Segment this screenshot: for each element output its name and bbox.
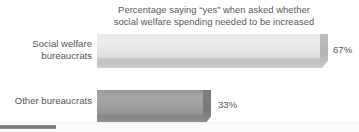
- bar-chart: Percentage saying “yes” when asked wheth…: [0, 0, 359, 132]
- bar-row-other-bureaucrats: [97, 90, 211, 124]
- bar-side-face: [320, 34, 328, 68]
- bar-row-social-welfare-bureaucrats: [97, 34, 328, 68]
- value-label-other-bureaucrats: 33%: [218, 99, 237, 110]
- bar-top-face: [97, 34, 321, 58]
- bar-top-face: [97, 90, 204, 114]
- category-label-other-bureaucrats: Other bureaucrats: [0, 95, 92, 107]
- bar-side-face: [203, 90, 211, 124]
- chart-title: Percentage saying “yes” when asked wheth…: [96, 4, 332, 28]
- bar-other-bureaucrats: [97, 90, 211, 124]
- page-bottom-mark: [0, 125, 56, 129]
- value-label-social-welfare-bureaucrats: 67%: [333, 44, 352, 55]
- chart-title-line-2: social welfare spending needed to be inc…: [96, 16, 332, 28]
- bar-front-face: [97, 58, 321, 68]
- category-label-social-welfare-bureaucrats: Social welfare bureaucrats: [0, 38, 92, 62]
- bar-social-welfare-bureaucrats: [97, 34, 328, 68]
- chart-title-line-1: Percentage saying “yes” when asked wheth…: [96, 4, 332, 16]
